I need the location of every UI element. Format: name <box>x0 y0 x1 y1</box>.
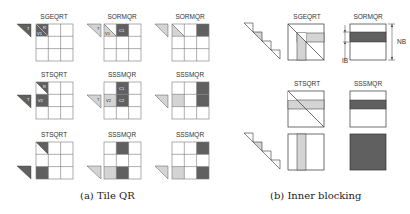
panel-title-stsqrt: STSQRT <box>41 71 67 79</box>
tile-grid-sssmqr-3 <box>104 142 141 179</box>
inner-title-sssmqr: SSSMQR <box>354 80 382 88</box>
nb-label: NB <box>397 38 406 45</box>
svg-text:C1: C1 <box>119 28 125 33</box>
tile-grid-sormqr: V1 C1 <box>104 24 141 61</box>
panel-title-sormqr-2: SORMQR <box>175 13 205 21</box>
panel-title-sormqr: SORMQR <box>107 13 137 21</box>
tile-grid-sgeqrt: R V1 <box>36 24 73 61</box>
t-factor-triangle <box>155 95 168 108</box>
tile-grid-sssmqr-2 <box>172 82 209 119</box>
tile-grid-stsqrt-2 <box>36 142 73 179</box>
inner-title-sormqr: SORMQR <box>353 13 383 21</box>
inner-title-stsqrt: STSQRT <box>294 80 320 88</box>
tile-grid-sssmqr: V2 C1 C2 <box>104 82 141 119</box>
panel-title-sgeqrt: SGEQRT <box>40 13 67 21</box>
t-factor-triangle <box>17 166 31 179</box>
staircase-t-factors-2 <box>244 133 280 169</box>
inner-block-sormqr: IB NB <box>342 24 406 64</box>
caption-inner-blocking: (b) Inner blocking <box>270 190 361 201</box>
inner-block-sssmqr-full <box>350 134 386 170</box>
inner-block-stsqrt <box>288 91 324 127</box>
tile-grid-sssmqr-4 <box>172 142 209 179</box>
svg-text:V1: V1 <box>105 31 111 36</box>
svg-text:R: R <box>43 25 46 30</box>
svg-text:V2: V2 <box>38 98 44 103</box>
svg-text:C2: C2 <box>119 98 125 103</box>
inner-title-sgeqrt: SGEQRT <box>293 13 320 21</box>
ib-label: IB <box>342 57 348 64</box>
svg-text:R: R <box>43 84 46 89</box>
staircase-t-factors <box>244 23 280 59</box>
t-factor-triangle <box>87 166 101 179</box>
tile-grid-stsqrt: R V2 <box>36 82 73 119</box>
t-factor-triangle <box>155 24 168 37</box>
svg-text:V1: V1 <box>37 31 43 36</box>
inner-block-sssmqr <box>350 91 386 127</box>
panel-title-sssmqr-4: SSSMQR <box>176 131 204 139</box>
tile-grid-sormqr-2 <box>172 24 209 61</box>
t-factor-triangle <box>155 166 168 179</box>
inner-block-stsqrt-column <box>288 134 324 170</box>
panel-title-sssmqr: SSSMQR <box>108 71 136 79</box>
panel-title-stsqrt-2: STSQRT <box>41 131 67 139</box>
panel-title-sssmqr-2: SSSMQR <box>176 71 204 79</box>
caption-tile-qr: (a) Tile QR <box>80 190 135 201</box>
svg-text:V2: V2 <box>106 98 112 103</box>
panel-title-sssmqr-3: SSSMQR <box>108 131 136 139</box>
svg-text:C1: C1 <box>119 86 125 91</box>
inner-block-sgeqrt <box>288 24 324 60</box>
tile-qr-diagram: SGEQRT T R V1 SORMQR T V1 C1 SORMQR <box>0 0 410 214</box>
